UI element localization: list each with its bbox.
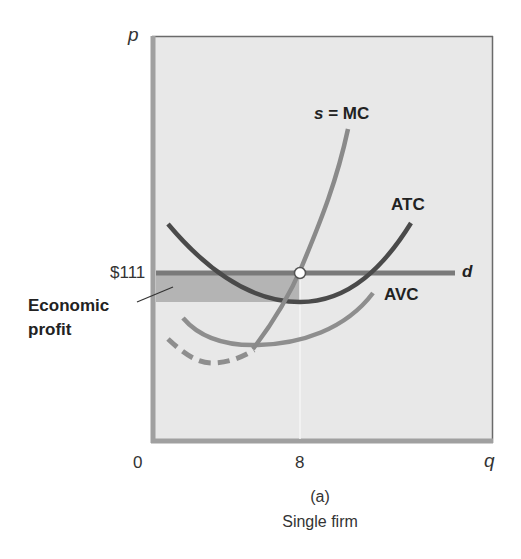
x-tick-q8: 8: [295, 453, 304, 473]
chart-title: Single firm: [220, 513, 420, 531]
y-tick-price: $111: [110, 263, 145, 283]
economic-profit-line-2: profit: [28, 318, 109, 342]
avc-curve-label: AVC: [384, 285, 419, 305]
atc-curve-label: ATC: [391, 195, 425, 215]
x-tick-origin: 0: [133, 453, 142, 473]
plot-area: [152, 36, 492, 442]
economic-profit-label: Economic profit: [28, 294, 109, 342]
x-axis-label: q: [484, 450, 495, 472]
y-axis-label: p: [128, 24, 139, 46]
chart-container: p q $111 0 8 s = MC ATC AVC d Economic p…: [0, 0, 521, 559]
mc-curve-label: s = MC: [314, 104, 369, 124]
economic-profit-line-1: Economic: [28, 294, 109, 318]
chart-svg: [0, 0, 521, 559]
panel-label: (a): [220, 488, 420, 506]
mc-label-rest: = MC: [323, 104, 369, 123]
demand-curve-label: d: [462, 262, 472, 282]
equilibrium-point: [295, 268, 306, 279]
